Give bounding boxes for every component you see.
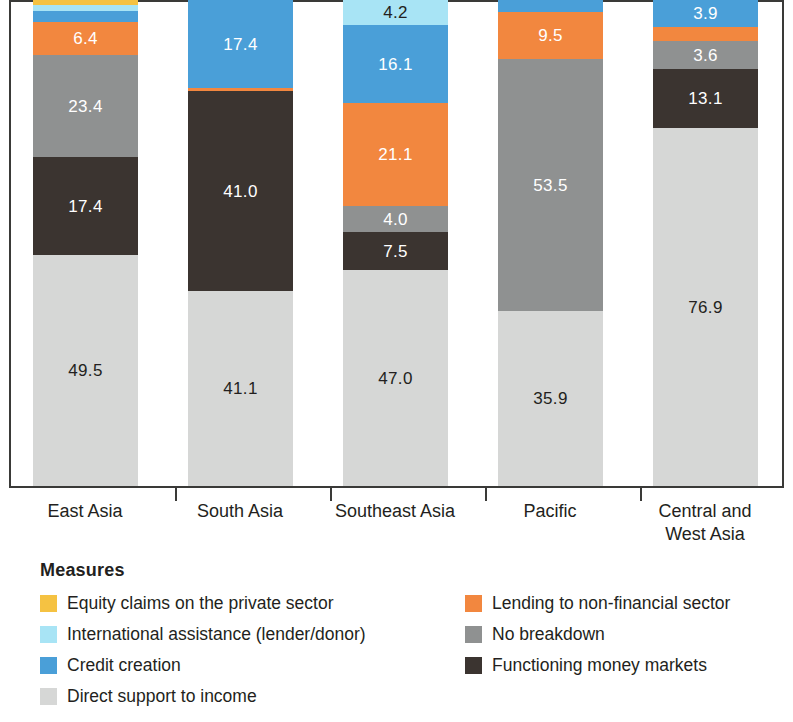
bar-segment-value-label: 4.2 xyxy=(383,4,408,21)
bar-segment: 9.5 xyxy=(498,12,603,59)
bar-segment-value-label: 47.0 xyxy=(378,370,412,387)
legend-swatch-money-markets xyxy=(465,657,482,674)
legend-item[interactable]: Credit creation xyxy=(40,650,460,681)
chart-legend: Measures Equity claims on the private se… xyxy=(40,560,780,588)
stacked-bar: 17.441.041.1 xyxy=(188,0,293,486)
bar-segment-value-label: 76.9 xyxy=(688,299,722,316)
x-axis-category-label: East Asia xyxy=(10,500,160,523)
legend-item[interactable]: Equity claims on the private sector xyxy=(40,588,460,619)
x-axis-line xyxy=(9,486,784,488)
bar-segment: 17.4 xyxy=(33,157,138,255)
bar-segment: 13.1 xyxy=(653,69,758,128)
legend-item-label: Direct support to income xyxy=(67,686,257,707)
legend-swatch-no-breakdown xyxy=(465,626,482,643)
legend-item[interactable]: Functioning money markets xyxy=(465,650,793,681)
category-label-line: West Asia xyxy=(630,523,780,546)
bar-segment-value-label: 53.5 xyxy=(533,177,567,194)
stacked-bar: 6.423.417.449.5 xyxy=(33,0,138,486)
y-axis-origin-tick xyxy=(9,473,11,488)
category-label-line: South Asia xyxy=(165,500,315,523)
x-axis-category-label: Central andWest Asia xyxy=(630,500,780,546)
bar-segment: 3.6 xyxy=(653,41,758,69)
category-label-line: Pacific xyxy=(475,500,625,523)
bar-segment-value-label: 17.4 xyxy=(223,36,257,53)
category-label-line: East Asia xyxy=(10,500,160,523)
legend-item-label: Functioning money markets xyxy=(492,655,707,676)
legend-swatch-credit-creation xyxy=(40,657,57,674)
bar-segment: 76.9 xyxy=(653,128,758,486)
legend-item[interactable]: Direct support to income xyxy=(40,681,460,712)
bar-segment-value-label: 23.4 xyxy=(68,98,102,115)
bar-segment xyxy=(33,11,138,22)
legend-swatch-equity xyxy=(40,595,57,612)
legend-item-label: Equity claims on the private sector xyxy=(67,593,334,614)
bar-segment-value-label: 6.4 xyxy=(73,30,98,47)
bar-segment: 17.4 xyxy=(188,0,293,88)
bar-segment: 23.4 xyxy=(33,55,138,157)
bar-segment: 49.5 xyxy=(33,255,138,486)
bar-segment-value-label: 41.0 xyxy=(223,183,257,200)
bar-segment-value-label: 4.0 xyxy=(383,211,408,228)
bar-segment: 41.1 xyxy=(188,291,293,486)
stacked-bars-area: 6.423.417.449.517.441.041.14.216.121.14.… xyxy=(11,0,782,486)
legend-item[interactable]: Lending to non-financial sector xyxy=(465,588,793,619)
bar-segment-value-label: 7.5 xyxy=(383,243,408,260)
bar-segment-value-label: 21.1 xyxy=(378,146,412,163)
legend-swatch-direct-support xyxy=(40,688,57,705)
stacked-bar: 9.553.535.9 xyxy=(498,0,603,486)
bar-segment-value-label: 16.1 xyxy=(378,56,412,73)
bar-segment-value-label: 17.4 xyxy=(68,198,102,215)
bar-segment: 16.1 xyxy=(343,25,448,103)
bar-segment-value-label: 3.6 xyxy=(693,47,718,64)
bar-segment-value-label: 49.5 xyxy=(68,362,102,379)
legend-title: Measures xyxy=(40,560,780,581)
x-axis-category-label: Pacific xyxy=(475,500,625,523)
legend-item-label: Credit creation xyxy=(67,655,181,676)
legend-swatch-lending xyxy=(465,595,482,612)
bar-segment: 21.1 xyxy=(343,103,448,206)
bar-segment-value-label: 3.9 xyxy=(693,5,718,22)
bar-segment: 4.2 xyxy=(343,0,448,25)
bar-segment: 35.9 xyxy=(498,311,603,486)
legend-item[interactable]: No breakdown xyxy=(465,619,793,650)
bar-segment-value-label: 41.1 xyxy=(223,380,257,397)
bar-segment: 3.9 xyxy=(653,0,758,27)
x-axis-category-label: Southeast Asia xyxy=(320,500,470,523)
legend-column-left: Equity claims on the private sectorInter… xyxy=(40,588,460,712)
bar-segment: 6.4 xyxy=(33,22,138,55)
stacked-bar: 3.93.613.176.9 xyxy=(653,0,758,486)
bar-segment-value-label: 9.5 xyxy=(538,27,563,44)
legend-item-label: International assistance (lender/donor) xyxy=(67,624,366,645)
bar-segment-value-label: 13.1 xyxy=(688,90,722,107)
bar-segment: 53.5 xyxy=(498,59,603,311)
bar-segment: 4.0 xyxy=(343,206,448,232)
bar-segment xyxy=(498,0,603,12)
bar-segment xyxy=(653,27,758,41)
legend-item[interactable]: International assistance (lender/donor) xyxy=(40,619,460,650)
bar-segment: 41.0 xyxy=(188,91,293,291)
category-label-line: Central and xyxy=(630,500,780,523)
stacked-bar: 4.216.121.14.07.547.0 xyxy=(343,0,448,486)
legend-swatch-international-assistance xyxy=(40,626,57,643)
bar-segment: 47.0 xyxy=(343,270,448,486)
x-axis-category-label: South Asia xyxy=(165,500,315,523)
legend-column-right: Lending to non-financial sectorNo breakd… xyxy=(465,588,793,681)
legend-item-label: No breakdown xyxy=(492,624,605,645)
category-label-line: Southeast Asia xyxy=(320,500,470,523)
legend-item-label: Lending to non-financial sector xyxy=(492,593,730,614)
x-axis-category-labels: East AsiaSouth AsiaSoutheast AsiaPacific… xyxy=(11,500,782,558)
bar-segment: 7.5 xyxy=(343,232,448,270)
bar-segment-value-label: 35.9 xyxy=(533,390,567,407)
